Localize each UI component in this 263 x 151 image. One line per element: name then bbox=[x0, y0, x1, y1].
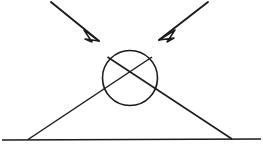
physics-diagram bbox=[0, 0, 263, 151]
figure-canvas bbox=[0, 0, 263, 151]
ground-line bbox=[2, 139, 261, 140]
right-arrow-shaft bbox=[159, 2, 208, 40]
right-rail bbox=[108, 57, 233, 139]
ball-circle bbox=[103, 51, 158, 106]
right-arrow-head-icon bbox=[159, 30, 175, 42]
left-force-arrow bbox=[51, 2, 99, 42]
left-rail bbox=[28, 57, 152, 140]
left-arrow-head-icon bbox=[84, 30, 99, 42]
right-force-arrow bbox=[159, 2, 208, 42]
